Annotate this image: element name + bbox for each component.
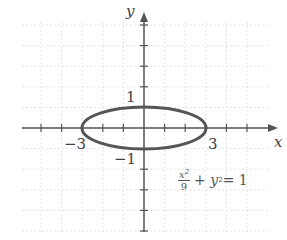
tick-label-neg3: −3 xyxy=(64,137,86,152)
grid-lines xyxy=(22,22,270,232)
tick-label-neg1: −1 xyxy=(114,152,136,167)
equation-annotation: x2 9 + y2 = 1 xyxy=(178,168,248,192)
plot-area xyxy=(0,0,287,240)
x-axis-label: x xyxy=(274,135,282,150)
x-axis-arrow-icon xyxy=(268,124,278,132)
tick-label-1: 1 xyxy=(126,90,136,105)
y-axis-label: y xyxy=(126,4,134,19)
y-axis-arrow-icon xyxy=(140,12,148,22)
x-axis xyxy=(22,124,278,132)
equation-fraction: x2 9 xyxy=(178,168,190,192)
tick-label-3: 3 xyxy=(208,137,218,152)
